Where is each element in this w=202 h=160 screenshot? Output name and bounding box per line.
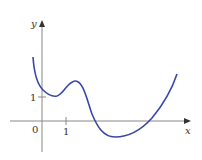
y-tick-label-1: 1 (30, 92, 36, 103)
x-axis-arrow-icon (184, 118, 191, 124)
y-axis-arrow-icon (39, 20, 45, 27)
x-tick-label-1: 1 (63, 126, 69, 137)
function-curve (33, 57, 177, 137)
x-axis-label: x (185, 125, 191, 136)
y-axis-label: y (30, 18, 37, 29)
function-graph: y x 0 1 1 (0, 0, 202, 160)
origin-label: 0 (32, 124, 38, 135)
